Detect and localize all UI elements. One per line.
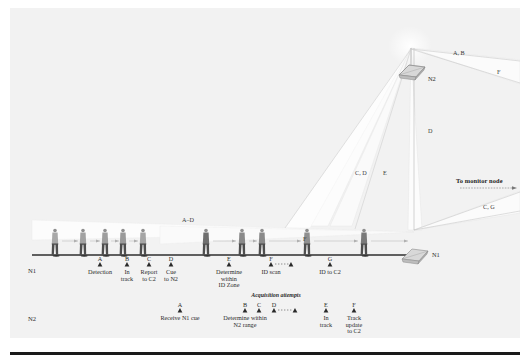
event-description: Cueto N2 <box>164 269 178 282</box>
event-description-line: to C2 <box>141 276 158 283</box>
event-description-line: ID scan <box>261 269 280 276</box>
event-description: Intrack <box>121 269 133 282</box>
event-tick <box>352 308 357 313</box>
bottom-rule <box>10 352 520 355</box>
node-icon-n1 <box>402 249 428 264</box>
beam-cone-e <box>330 48 411 226</box>
event-description-line: ID Zone <box>216 282 242 289</box>
event-tick <box>289 262 294 267</box>
event-tick <box>125 262 130 267</box>
event-description: Receive N1 cue <box>160 315 199 322</box>
event-description-line: to C2 <box>346 328 363 335</box>
beam-label: A, B <box>453 50 465 57</box>
event-description-line: track <box>121 276 133 283</box>
beam-label: D <box>428 128 432 135</box>
diagram-canvas <box>10 8 520 338</box>
event-description-line: track <box>320 322 332 329</box>
beam-label: E <box>383 170 387 177</box>
event-description: Detection <box>88 269 112 276</box>
beam-label: F <box>497 69 500 76</box>
event-letter: C <box>147 256 151 263</box>
event-letter: B <box>125 256 129 263</box>
event-tick <box>293 308 298 313</box>
swimlane-label-n1: N1 <box>28 268 36 275</box>
event-description-line: N2 range <box>223 322 266 329</box>
beam-label: C, G <box>483 204 495 211</box>
event-description-line: ID to C2 <box>319 269 341 276</box>
event-tick <box>269 262 274 267</box>
event-tick <box>98 262 103 267</box>
event-tick <box>147 262 152 267</box>
n1-event-ticks <box>98 262 333 267</box>
event-letter: E <box>324 302 328 309</box>
figure-container: A, BFDC, DEC, GA–DF N2 N1 To monitor nod… <box>0 0 530 364</box>
beam-label: C, D <box>355 170 367 177</box>
monitor-node-label: To monitor node <box>456 178 503 185</box>
beam-label: A–D <box>182 217 194 224</box>
event-letter: C <box>257 302 261 309</box>
event-tick <box>227 262 232 267</box>
event-tick <box>178 308 183 313</box>
event-letter: G <box>328 256 332 263</box>
event-letter: A <box>178 302 182 309</box>
event-description: Trackupdateto C2 <box>346 315 363 335</box>
event-description: ID to C2 <box>319 269 341 276</box>
event-tick <box>169 262 174 267</box>
event-description: DeterminewithinID Zone <box>216 269 242 289</box>
event-description-line: Receive N1 cue <box>160 315 199 322</box>
acquisition-attempts-label: Acquisition attempts <box>251 292 301 298</box>
event-description: Reportto C2 <box>141 269 158 282</box>
event-letter: A <box>98 256 102 263</box>
node-label-n1: N1 <box>432 252 440 259</box>
node-label-n2: N2 <box>428 76 436 83</box>
event-letter: E <box>227 256 231 263</box>
event-description-line: to N2 <box>164 276 178 283</box>
event-description-line: Detection <box>88 269 112 276</box>
n2-event-ticks <box>178 308 357 313</box>
beam-cones <box>32 26 520 244</box>
monitor-node-arrow <box>460 186 517 189</box>
event-description: Determine withinN2 range <box>223 315 266 328</box>
event-letter: B <box>243 302 247 309</box>
event-letter: F <box>269 256 272 263</box>
event-letter: D <box>169 256 173 263</box>
swimlane-label-n2: N2 <box>28 316 36 323</box>
event-tick <box>272 308 277 313</box>
beam-label: F <box>303 236 306 243</box>
event-tick <box>257 308 262 313</box>
event-letter: D <box>272 302 276 309</box>
event-letter: F <box>352 302 355 309</box>
event-description: ID scan <box>261 269 280 276</box>
event-description: Intrack <box>320 315 332 328</box>
figure-plate: A, BFDC, DEC, GA–DF N2 N1 To monitor nod… <box>10 8 520 338</box>
event-tick <box>324 308 329 313</box>
event-tick <box>243 308 248 313</box>
event-tick <box>328 262 333 267</box>
n2-apex-glow <box>388 26 432 66</box>
